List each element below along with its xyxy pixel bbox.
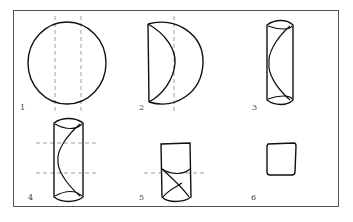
folding-diagram	[0, 0, 353, 222]
step-6-square	[267, 143, 296, 175]
step-3-strip	[267, 21, 293, 105]
step-label-1: 1	[20, 103, 25, 112]
step-label-3: 3	[252, 103, 257, 112]
step-2-half-fold	[148, 16, 203, 112]
step-label-6: 6	[251, 193, 256, 202]
step-4-strip-dashed	[36, 119, 96, 202]
step-5-fold-up	[144, 143, 205, 202]
step-label-4: 4	[28, 193, 33, 202]
step-label-2: 2	[139, 103, 144, 112]
step-label-5: 5	[139, 193, 144, 202]
step-1-circle	[28, 16, 106, 112]
